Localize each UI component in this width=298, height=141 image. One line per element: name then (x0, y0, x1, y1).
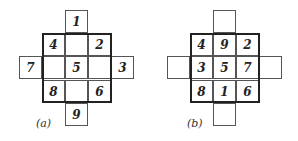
cell-bottom: 9 (65, 103, 88, 126)
cell-top (213, 10, 236, 33)
cell-top: 1 (65, 10, 88, 33)
cell-right (259, 56, 282, 79)
cell-left (167, 56, 190, 79)
cell-left: 7 (19, 56, 42, 79)
figure-a: 1 7 3 9 4 2 5 8 6 (a) (0, 0, 150, 141)
cell-right: 3 (111, 56, 134, 79)
cell-bottom (213, 103, 236, 126)
magic-square-border (42, 33, 112, 103)
figure-label: (b) (187, 117, 203, 130)
figure-b: 4 9 2 3 5 7 8 1 6 (b) (148, 0, 298, 141)
figure-label: (a) (36, 117, 51, 130)
magic-square-border (190, 33, 260, 103)
